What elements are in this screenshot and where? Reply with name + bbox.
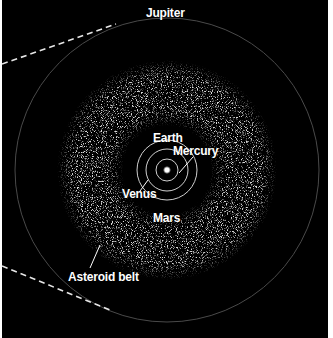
solar-system-diagram: Jupiter Earth Mercury Venus Mars Asteroi…: [2, 0, 328, 338]
sun-icon: [163, 166, 171, 174]
label-asteroid-belt: Asteroid belt: [68, 270, 139, 284]
label-venus: Venus: [122, 187, 156, 201]
label-mercury: Mercury: [173, 144, 218, 158]
diagram-canvas: [2, 0, 328, 338]
upper-dashed-line: [2, 24, 116, 64]
label-earth: Earth: [153, 131, 183, 145]
label-jupiter: Jupiter: [146, 6, 185, 20]
label-mars: Mars: [153, 211, 180, 225]
